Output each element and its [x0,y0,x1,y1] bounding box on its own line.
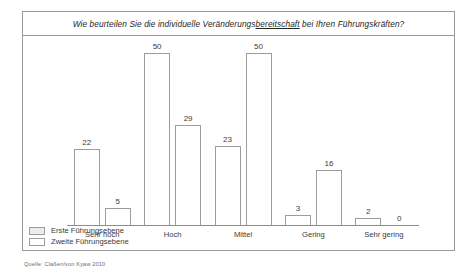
bar [105,208,131,225]
chart-title-band: Wie beurteilen Sie die individuelle Verä… [23,12,454,36]
bar-value: 0 [397,214,401,224]
title-prefix: Wie beurteilen Sie die individuelle Verä… [73,19,256,29]
bar [175,125,201,225]
bar-group-sehr-hoch: 22 5 [67,36,137,225]
bar-slot-sehr-hoch-erste: 22 [74,36,100,225]
bar-group-hoch: 50 29 [137,36,207,225]
bar [215,146,241,225]
x-tick-label: Gering [278,227,348,239]
bar-value: 29 [184,114,193,124]
bar [246,53,272,225]
bar-slot-hoch-erste: 50 [144,36,170,225]
x-tick-label: Hoch [137,227,207,239]
title-emphasis: bereitschaft [256,19,300,29]
bar-slot-mittel-erste: 23 [215,36,241,225]
bar-slot-sehr-gering-erste: 2 [355,36,381,225]
chart-legend: Erste Führungsebene Zweite Führungsebene [29,224,129,246]
bar-slot-gering-erste: 3 [285,36,311,225]
bar [144,53,170,225]
legend-label: Zweite Führungsebene [51,237,129,246]
bar-group-gering: 3 16 [278,36,348,225]
legend-item-erste-fuehrungsebene: Erste Führungsebene [29,226,129,235]
bar-value: 50 [254,42,263,52]
bar-value: 2 [366,207,370,217]
bar-slot-hoch-zweite: 29 [175,36,201,225]
bar-slot-mittel-zweite: 50 [246,36,272,225]
x-tick-label: Sehr gering [349,227,419,239]
bar [316,170,342,225]
bar-value: 16 [324,159,333,169]
page-title: Wie beurteilen Sie die individuelle Verä… [73,19,405,29]
title-suffix: bei Ihren Führungskräften? [300,19,405,29]
bar-slot-sehr-hoch-zweite: 5 [105,36,131,225]
bar-value: 50 [153,42,162,52]
bar-value: 3 [296,204,300,214]
legend-swatch-icon [29,238,45,246]
bar-value: 23 [223,135,232,145]
bar-value: 22 [82,138,91,148]
legend-swatch-icon [29,227,45,235]
legend-item-zweite-fuehrungsebene: Zweite Führungsebene [29,237,129,246]
source-note: Quelle: Claßen/von Kyaw 2010 [24,261,105,267]
bar-slot-gering-zweite: 16 [316,36,342,225]
x-tick-label: Mittel [208,227,278,239]
bar-slot-sehr-gering-zweite: 0 [386,36,412,225]
bar-group-sehr-gering: 2 0 [349,36,419,225]
bar-group-mittel: 23 50 [208,36,278,225]
plot-area: 22 5 50 29 [23,36,456,252]
chart-figure: Wie beurteilen Sie die individuelle Verä… [22,11,455,251]
legend-label: Erste Führungsebene [51,226,124,235]
bar [74,149,100,225]
bar [355,218,381,225]
bar-value: 5 [115,197,119,207]
bar-groups: 22 5 50 29 [67,36,419,225]
bar [285,215,311,225]
